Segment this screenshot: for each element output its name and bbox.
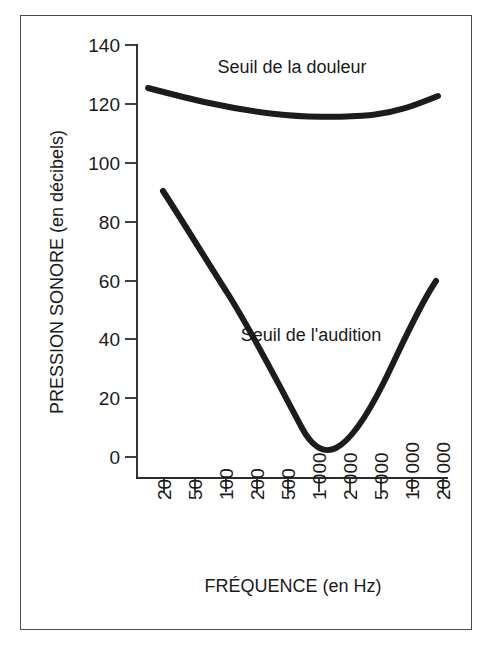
- sound-pressure-frequency-chart: 140 120 100 80 60 40 20 0 20 50 100 200 …: [0, 0, 491, 656]
- x-tick-label-500: 500: [278, 468, 299, 500]
- y-axis-title: PRESSION SONORE (en décibels): [47, 130, 67, 414]
- y-tick-label-20: 20: [99, 388, 120, 409]
- x-tick-label-20000: 20 000: [433, 442, 454, 500]
- x-tick-label-10000: 10 000: [402, 442, 423, 500]
- y-tick-label-40: 40: [99, 329, 120, 350]
- hearing-threshold-label: Seuil de l'audition: [241, 325, 382, 345]
- data-curves: [148, 88, 438, 450]
- series-annotations: Seuil de la douleur Seuil de l'audition: [217, 57, 381, 345]
- hearing-threshold-curve: [163, 191, 436, 450]
- x-tick-label-20: 20: [154, 479, 175, 500]
- x-tick-label-200: 200: [247, 468, 268, 500]
- y-tick-label-120: 120: [88, 94, 120, 115]
- x-tick-label-5000: 5 000: [371, 452, 392, 500]
- x-axis-tick-labels: 20 50 100 200 500 1 000 2 000 5 000 10 0…: [154, 442, 454, 500]
- x-tick-label-100: 100: [216, 468, 237, 500]
- y-tick-label-100: 100: [88, 153, 120, 174]
- x-tick-label-1000: 1 000: [309, 452, 330, 500]
- y-axis-tick-labels: 140 120 100 80 60 40 20 0: [88, 35, 120, 468]
- y-tick-label-60: 60: [99, 271, 120, 292]
- y-axis-ticks: [125, 45, 137, 457]
- x-axis-title: FRÉQUENCE (en Hz): [204, 576, 381, 596]
- y-tick-label-140: 140: [88, 35, 120, 56]
- pain-threshold-label: Seuil de la douleur: [217, 57, 366, 77]
- x-tick-label-2000: 2 000: [340, 452, 361, 500]
- y-tick-label-0: 0: [109, 447, 120, 468]
- pain-threshold-curve: [148, 88, 438, 117]
- y-tick-label-80: 80: [99, 212, 120, 233]
- x-tick-label-50: 50: [185, 479, 206, 500]
